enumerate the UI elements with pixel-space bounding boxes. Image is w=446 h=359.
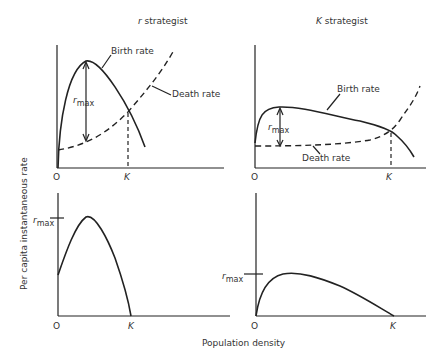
birth-rate-label: Birth rate — [111, 46, 154, 56]
k-label: K — [390, 321, 397, 331]
birth-leader — [102, 55, 111, 68]
origin-label: O — [251, 321, 258, 331]
net-rate-curve — [256, 273, 394, 316]
origin-label: O — [53, 172, 60, 182]
rmax-label: rmax — [33, 215, 54, 228]
birth-rate-curve — [58, 61, 145, 168]
net-rate-curve — [58, 217, 131, 316]
k-label: K — [128, 321, 135, 331]
origin-label: O — [251, 172, 258, 182]
panel-bottom-left — [50, 193, 230, 316]
title-r-strategist: r strategist — [138, 16, 188, 26]
panel-bottom-right — [244, 193, 426, 316]
death-rate-label: Death rate — [302, 153, 351, 163]
origin-label: O — [53, 321, 60, 331]
panel-top-right — [255, 45, 426, 168]
k-label: K — [386, 172, 393, 182]
rmax-label: rmax — [73, 95, 94, 108]
rmax-label: rmax — [222, 271, 243, 284]
k-label: K — [124, 172, 131, 182]
birth-rate-label: Birth rate — [337, 84, 380, 94]
x-axis-label: Population density — [202, 338, 286, 348]
r-K-strategist-diagram: r strategist K strategist Birth rate Dea… — [0, 0, 446, 359]
death-rate-label: Death rate — [172, 89, 221, 99]
birth-leader — [327, 94, 340, 110]
y-axis-label: Per capita instantaneous rate — [19, 157, 29, 290]
title-k-strategist: K strategist — [316, 16, 368, 26]
death-leader — [152, 86, 171, 95]
rmax-label: rmax — [268, 122, 289, 135]
